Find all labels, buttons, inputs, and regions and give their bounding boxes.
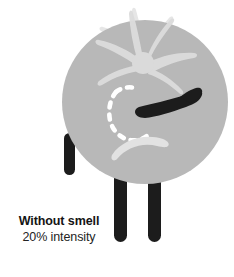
figure-caption: Without smell 20% intensity	[0, 213, 118, 245]
illustration-page: tion ense of would ercent ome. Without s…	[0, 0, 234, 277]
body-line: would	[0, 86, 88, 107]
heading-text: tion	[0, 44, 88, 63]
caption-subtitle: 20% intensity	[0, 229, 118, 245]
body-text-block: tion ense of would ercent ome.	[0, 44, 88, 149]
caption-title: Without smell	[0, 213, 118, 229]
body-line: ense of	[0, 65, 88, 86]
body-line: ome.	[0, 128, 88, 149]
body-paragraph: ense of would ercent ome.	[0, 65, 88, 149]
body-line: ercent	[0, 107, 88, 128]
